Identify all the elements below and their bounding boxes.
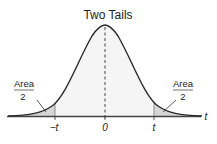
two-tailed-t-distribution-diagram: Two Tails Area 2 Area 2 −t 0 t t bbox=[0, 0, 217, 144]
left-area-label-numerator: Area bbox=[14, 78, 35, 89]
left-area-label-denominator: 2 bbox=[20, 91, 25, 102]
tick-label-zero: 0 bbox=[102, 122, 108, 133]
right-area-label-denominator: 2 bbox=[180, 91, 185, 102]
tick-label-neg-t: −t bbox=[50, 122, 60, 133]
right-area-label-numerator: Area bbox=[173, 78, 194, 89]
right-area-pointer bbox=[163, 100, 176, 112]
tick-label-pos-t: t bbox=[153, 122, 157, 133]
left-area-pointer bbox=[37, 100, 46, 112]
axis-label-t: t bbox=[205, 111, 209, 122]
diagram-title: Two Tails bbox=[83, 8, 132, 22]
